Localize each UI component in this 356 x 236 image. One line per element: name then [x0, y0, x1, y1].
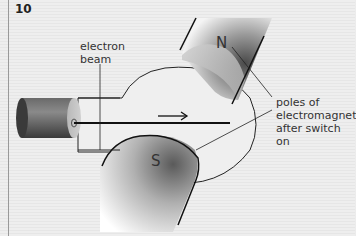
- label-line: electron: [80, 40, 125, 53]
- north-pole-label: N: [216, 34, 227, 52]
- label-line: poles of: [276, 96, 356, 109]
- south-pole-label: S: [151, 152, 161, 170]
- label-line: after switch on: [276, 122, 356, 148]
- label-line: electromagnet: [276, 109, 356, 122]
- electron-beam-label: electron beam: [80, 40, 125, 66]
- label-line: beam: [80, 53, 125, 66]
- poles-label: poles of electromagnet after switch on: [276, 96, 356, 148]
